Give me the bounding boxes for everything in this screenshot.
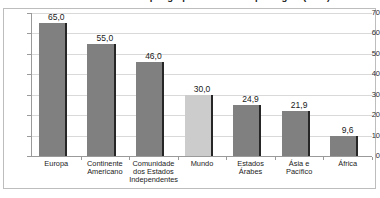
bar-slot: 65,0: [32, 13, 81, 156]
x-axis-line: [31, 156, 372, 157]
chart-title: Número de benefícios por grupo de receit…: [0, 0, 380, 3]
bar-value-label: 21,9: [275, 100, 324, 110]
y-tick-mark: [27, 54, 31, 55]
x-category-label: Ásia e Pacífico: [275, 160, 324, 176]
bars-layer: 65,055,046,030,024,921,99,6: [32, 13, 372, 156]
bar: [282, 111, 310, 156]
y-tick-mark: [27, 156, 31, 157]
bar-slot: 21,9: [275, 13, 324, 156]
bar-slot: 55,0: [81, 13, 130, 156]
bar: [39, 23, 67, 156]
bar: [87, 44, 115, 156]
bar-value-label: 46,0: [129, 51, 178, 61]
y-tick-mark: [27, 115, 31, 116]
bar: [136, 62, 164, 156]
x-category-label: Continente Americano: [81, 160, 130, 176]
bar-slot: 9,6: [323, 13, 372, 156]
bar-value-label: 55,0: [81, 33, 130, 43]
x-category-label: Europa: [32, 160, 81, 168]
bar-value-label: 30,0: [178, 84, 227, 94]
y-tick-mark: [27, 13, 31, 14]
x-tick-mark: [372, 157, 373, 160]
bar: [185, 95, 213, 156]
x-category-label: Comunidade dos Estados Independentes: [129, 160, 178, 185]
bar: [330, 136, 358, 156]
bar-value-label: 24,9: [226, 94, 275, 104]
x-category-label: África: [323, 160, 372, 168]
y-tick-mark: [27, 33, 31, 34]
bar-slot: 24,9: [226, 13, 275, 156]
y-tick-mark: [27, 95, 31, 96]
y-tick-mark: [27, 74, 31, 75]
x-category-label: Mundo: [178, 160, 227, 168]
plot-area: 65,055,046,030,024,921,99,6: [32, 13, 372, 156]
y-tick-mark: [27, 136, 31, 137]
bar-value-label: 9,6: [323, 125, 372, 135]
bar: [233, 105, 261, 156]
bar-slot: 46,0: [129, 13, 178, 156]
x-category-label: Estados Árabes: [226, 160, 275, 176]
bar-slot: 30,0: [178, 13, 227, 156]
bar-value-label: 65,0: [32, 12, 81, 22]
bar-chart-figure: Número de benefícios por grupo de receit…: [0, 0, 380, 198]
